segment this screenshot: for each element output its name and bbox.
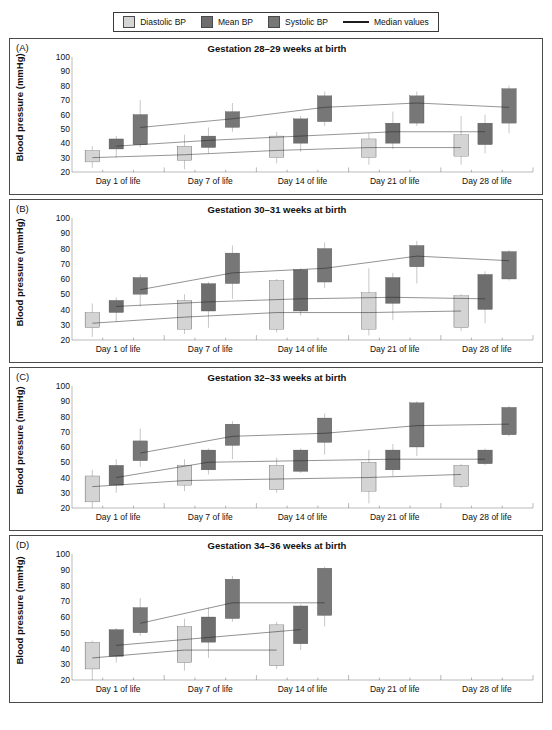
box-rect [201, 617, 215, 642]
y-tick-label: 40 [46, 305, 70, 315]
y-tick-label: 50 [46, 289, 70, 299]
box-plot-mean-bp [386, 273, 400, 320]
y-axis-label-text: Blood pressure (mmHg) [14, 556, 25, 664]
box-plot-diastolic-bp [270, 458, 284, 493]
y-tick-label: 50 [46, 628, 70, 638]
line-sample-icon [343, 21, 369, 23]
y-tick-label: 80 [46, 81, 70, 91]
y-tick-label: 50 [46, 124, 70, 134]
square-swatch-icon [123, 16, 135, 28]
x-axis-labels: Day 1 of lifeDay 7 of lifeDay 14 of life… [72, 684, 533, 698]
box-rect [270, 625, 284, 666]
box-rect [410, 96, 424, 123]
box-rect [294, 606, 308, 644]
box-plot-diastolic-bp [362, 450, 376, 503]
y-tick-label: 90 [46, 565, 70, 575]
y-tick-label: 70 [46, 427, 70, 437]
box-rect [225, 579, 239, 618]
x-tick-label: Day 14 of life [256, 176, 348, 190]
box-rect [362, 139, 376, 158]
y-axis-label-text: Blood pressure (mmHg) [14, 218, 25, 326]
box-plot-mean-bp [478, 271, 492, 323]
box-plot-diastolic-bp [177, 294, 191, 334]
x-tick-label: Day 7 of life [164, 512, 256, 526]
box-plot-diastolic-bp [177, 135, 191, 170]
box-plot-diastolic-bp [177, 459, 191, 491]
y-tick-label: 50 [46, 457, 70, 467]
panel-title: Gestation 32–33 weeks at birth [10, 372, 544, 383]
legend-item-median-values: Median values [343, 17, 429, 27]
plot-area [72, 57, 533, 172]
box-rect [502, 252, 516, 279]
legend-container: Diastolic BPMean BPSystolic BPMedian val… [0, 12, 552, 32]
box-plot-systolic-bp [317, 242, 331, 288]
box-rect [362, 293, 376, 330]
y-axis-ticks: 1009080706050403020 [28, 386, 70, 508]
box-rect [454, 465, 468, 486]
box-rect [410, 403, 424, 447]
box-rect [225, 112, 239, 128]
y-axis-label: Blood pressure (mmHg) [12, 536, 26, 684]
box-plot-mean-bp [201, 608, 215, 658]
box-rect [133, 608, 147, 633]
y-tick-label: 100 [46, 381, 70, 391]
x-tick-label: Day 21 of life [349, 684, 441, 698]
box-plot-systolic-bp [225, 576, 239, 622]
square-swatch-icon [268, 16, 280, 28]
box-rect [478, 274, 492, 309]
box-rect [294, 270, 308, 311]
plot-area [72, 386, 533, 508]
y-tick-label: 60 [46, 612, 70, 622]
legend-item-systolic-bp: Systolic BP [268, 16, 328, 28]
y-tick-label: 30 [46, 488, 70, 498]
y-axis-label: Blood pressure (mmHg) [12, 200, 26, 344]
panel-d: (D)Gestation 34–36 weeks at birthBlood p… [9, 535, 543, 703]
x-tick-label: Day 28 of life [441, 344, 533, 358]
legend-label: Systolic BP [285, 17, 328, 27]
y-axis-ticks: 1009080706050403020 [28, 218, 70, 340]
x-tick-label: Day 21 of life [349, 344, 441, 358]
box-rect [177, 465, 191, 485]
box-rect [201, 136, 215, 148]
x-tick-label: Day 14 of life [256, 344, 348, 358]
box-plot-systolic-bp [317, 413, 331, 454]
x-tick-label: Day 7 of life [164, 684, 256, 698]
box-rect [133, 277, 147, 294]
box-rect [225, 253, 239, 284]
x-tick-label: Day 28 of life [441, 176, 533, 190]
box-rect [317, 568, 331, 615]
box-plot-mean-bp [478, 115, 492, 154]
y-tick-label: 20 [46, 675, 70, 685]
plot-area [72, 218, 533, 340]
box-plot-systolic-bp [410, 92, 424, 127]
y-tick-label: 20 [46, 503, 70, 513]
box-plot-systolic-bp [133, 598, 147, 636]
box-plot-systolic-bp [317, 567, 331, 627]
y-tick-label: 100 [46, 549, 70, 559]
y-tick-label: 90 [46, 228, 70, 238]
panel-title: Gestation 30–31 weeks at birth [10, 204, 544, 215]
box-plot-systolic-bp [410, 401, 424, 456]
box-rect [270, 281, 284, 330]
box-rect [454, 296, 468, 328]
box-rect [201, 450, 215, 470]
figure-root: Diastolic BPMean BPSystolic BPMedian val… [0, 0, 552, 730]
box-plot-mean-bp [201, 449, 215, 475]
box-plot-diastolic-bp [85, 470, 99, 508]
y-tick-label: 60 [46, 110, 70, 120]
box-rect [109, 139, 123, 149]
box-plot-systolic-bp [502, 86, 516, 133]
y-tick-label: 90 [46, 66, 70, 76]
box-rect [85, 642, 99, 669]
y-tick-label: 60 [46, 274, 70, 284]
box-rect [317, 418, 331, 442]
x-tick-label: Day 1 of life [72, 684, 164, 698]
box-rect [478, 450, 492, 464]
box-rect [85, 476, 99, 502]
box-rect [133, 115, 147, 145]
x-tick-label: Day 1 of life [72, 512, 164, 526]
box-rect [478, 123, 492, 145]
box-plot-systolic-bp [502, 250, 516, 281]
x-axis-labels: Day 1 of lifeDay 7 of lifeDay 14 of life… [72, 176, 533, 190]
panel-title: Gestation 34–36 weeks at birth [10, 540, 544, 551]
